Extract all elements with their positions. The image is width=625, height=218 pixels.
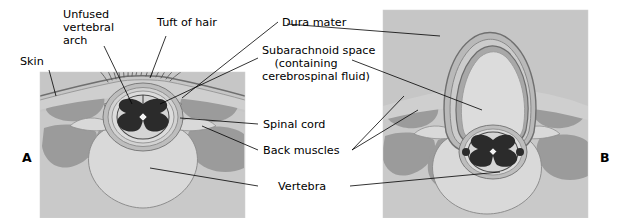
leader-tuft-of-hair — [150, 36, 166, 78]
label-subarachnoid-space: Subarachnoid space (containing cerebrosp… — [262, 44, 350, 83]
panel-b-anatomy — [382, 10, 588, 218]
label-unfused-vertebral-arch: Unfused vertebral arch — [63, 8, 114, 47]
label-vertebra: Vertebra — [278, 180, 326, 193]
label-spinal-cord: Spinal cord — [263, 118, 325, 131]
panel-label-a: A — [22, 150, 32, 165]
panel-a-anatomy — [40, 50, 245, 218]
figure-canvas: Skin Unfused vertebral arch Tuft of hair… — [0, 0, 625, 218]
panel-label-b: B — [600, 150, 610, 165]
label-tuft-of-hair: Tuft of hair — [157, 16, 217, 29]
label-back-muscles: Back muscles — [263, 144, 340, 157]
label-dura-mater: Dura mater — [282, 16, 346, 29]
label-skin: Skin — [20, 55, 44, 68]
